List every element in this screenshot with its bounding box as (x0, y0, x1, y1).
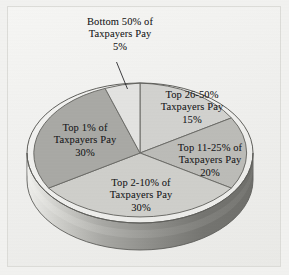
slice-value-top-26-50: 15% (140, 114, 244, 126)
slice-label-line2: Taxpayers Pay (84, 189, 198, 201)
slice-label-line1: Top 1% of (32, 122, 138, 134)
slice-value-top-1: 30% (32, 147, 138, 159)
slice-label-line2: Taxpayers Pay (155, 154, 265, 166)
slice-label-line2: Taxpayers Pay (60, 28, 180, 40)
slice-label-top-26-50: Top 26-50% Taxpayers Pay 15% (140, 89, 244, 126)
slice-label-line1: Top 11-25% of (155, 142, 265, 154)
slice-label-top-11-25: Top 11-25% of Taxpayers Pay 20% (155, 142, 265, 179)
slice-label-top-2-10: Top 2-10% of Taxpayers Pay 30% (84, 177, 198, 214)
slice-label-line1: Bottom 50% of (60, 16, 180, 28)
slice-label-line1: Top 2-10% of (84, 177, 198, 189)
pie-chart-figure: Bottom 50% of Taxpayers Pay 5% Top 26-50… (0, 0, 289, 275)
slice-value-bottom-50: 5% (60, 41, 180, 53)
slice-label-line2: Taxpayers Pay (140, 101, 244, 113)
slice-value-top-2-10: 30% (84, 202, 198, 214)
slice-label-line2: Taxpayers Pay (32, 134, 138, 146)
slice-label-top-1: Top 1% of Taxpayers Pay 30% (32, 122, 138, 159)
slice-label-bottom-50: Bottom 50% of Taxpayers Pay 5% (60, 16, 180, 53)
slice-label-line1: Top 26-50% (140, 89, 244, 101)
